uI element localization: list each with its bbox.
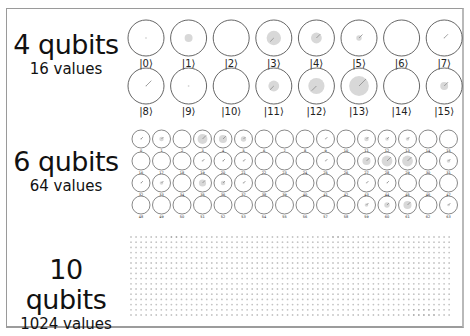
state-dot [251,252,253,254]
state-dot [176,309,178,311]
state-dot [135,314,137,316]
state-dot [408,299,410,301]
state-dot [261,314,263,316]
state-dot [246,257,248,259]
state-dot [292,283,294,285]
state-dot [287,273,289,275]
state-dot [373,241,375,243]
state-dot [433,288,435,290]
state-dot [171,273,173,275]
state-dot [403,236,405,238]
state-dot [261,247,263,249]
state-dot [433,273,435,275]
state-dot [332,241,334,243]
state-dot [367,247,369,249]
state-dot [413,262,415,264]
state-circle: |5⟩ [341,20,377,70]
state-circle: 50 [173,196,191,219]
state-circle: |7⟩ [426,20,462,70]
state-dot [297,267,299,269]
state-dot [282,293,284,295]
state-dot [201,273,203,275]
state-dot [196,278,198,280]
state-dot [307,273,309,275]
state-dot [312,262,314,264]
state-dot [246,314,248,316]
state-dot [155,273,157,275]
state-dot [443,314,445,316]
state-dot [221,267,223,269]
state-dot [362,241,364,243]
state-dot [231,304,233,306]
state-dot [171,293,173,295]
state-dot [337,236,339,238]
state-circle: 52 [214,196,232,219]
state-dot [373,278,375,280]
state-dot [241,252,243,254]
state-dot [302,241,304,243]
state-dot [130,236,132,238]
state-dot [176,299,178,301]
state-dot [165,252,167,254]
state-dot [438,241,440,243]
state-dot [287,267,289,269]
state-dot [438,293,440,295]
state-dot [191,236,193,238]
state-dot [428,278,430,280]
state-label: 51 [200,215,204,219]
state-dot [236,267,238,269]
state-dot [418,314,420,316]
state-dot [357,267,359,269]
state-dot [231,299,233,301]
state-dot [312,293,314,295]
state-dot [448,262,450,264]
state-dot [327,278,329,280]
state-dot [378,314,380,316]
state-dot [418,309,420,311]
state-dot [140,241,142,243]
state-circle: |9⟩ [171,68,207,118]
state-dot [342,267,344,269]
state-dot [418,267,420,269]
state-dot [236,278,238,280]
state-dot [181,304,183,306]
state-dot [211,299,213,301]
state-circle: 3 [194,130,212,153]
state-dot [367,262,369,264]
state-dot [393,241,395,243]
state-dot [236,304,238,306]
state-dot [428,247,430,249]
state-circle: 29 [399,152,417,175]
state-dot [186,314,188,316]
state-dot [347,273,349,275]
state-dot [206,247,208,249]
state-dot [357,304,359,306]
outline-circle [399,174,417,192]
state-dot [393,267,395,269]
state-dot [186,262,188,264]
state-dot [277,241,279,243]
state-dot [176,304,178,306]
state-dot [332,262,334,264]
phase-line [244,159,246,161]
state-dot [241,314,243,316]
state-dot [307,309,309,311]
state-dot [165,309,167,311]
state-dot [256,283,258,285]
state-dot [241,241,243,243]
state-dot [246,252,248,254]
state-dot [206,293,208,295]
state-dot [226,252,228,254]
state-dot [388,267,390,269]
state-dot [130,299,132,301]
state-dot [196,273,198,275]
state-dot [347,293,349,295]
state-dot [403,309,405,311]
state-dot [231,283,233,285]
state-dot [418,278,420,280]
state-circle: 39 [276,174,294,197]
state-dot [226,241,228,243]
state-dot [211,267,213,269]
state-dot [322,278,324,280]
state-dot [135,267,137,269]
